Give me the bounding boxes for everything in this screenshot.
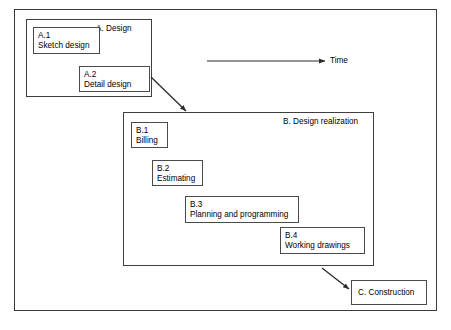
task-box-c-construction: C. Construction: [351, 280, 427, 305]
task-code-b4: B.4: [285, 231, 297, 241]
task-code-b3: B.3: [190, 200, 202, 210]
time-axis-label: Time: [330, 56, 348, 66]
group-b-label: B. Design realization: [283, 117, 358, 127]
task-label-b2: Estimating: [157, 174, 195, 184]
task-label-b4: Working drawings: [285, 241, 350, 251]
task-box-b2: B.2 Estimating: [152, 160, 203, 186]
task-label-a2: Detail design: [84, 80, 131, 90]
task-box-b4: B.4 Working drawings: [280, 227, 365, 254]
process-diagram: A. Design B. Design realization A.1 Sket…: [0, 0, 451, 330]
task-box-a2: A.2 Detail design: [79, 66, 150, 92]
task-code-a2: A.2: [84, 70, 96, 80]
task-code-b1: B.1: [136, 126, 148, 136]
task-label-c: C. Construction: [358, 288, 414, 298]
task-label-a1: Sketch design: [38, 41, 89, 51]
task-code-a1: A.1: [38, 31, 50, 41]
task-box-a1: A.1 Sketch design: [33, 27, 100, 54]
task-code-b2: B.2: [157, 164, 169, 174]
task-label-b1: Billing: [136, 136, 158, 146]
task-label-b3: Planning and programming: [190, 210, 288, 220]
task-box-b1: B.1 Billing: [131, 122, 168, 148]
group-a-label: A. Design: [96, 24, 132, 34]
task-box-b3: B.3 Planning and programming: [185, 196, 299, 223]
